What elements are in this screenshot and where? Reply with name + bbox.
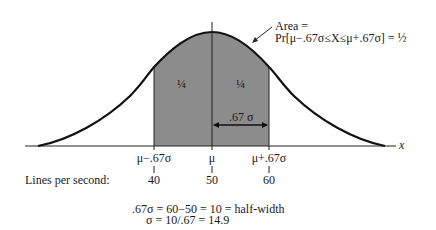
tick-label-upper: μ+.67σ <box>229 151 309 166</box>
value-50: 50 <box>197 173 227 188</box>
pointer-arrowhead-icon <box>252 37 258 43</box>
probability-expression: Pr[μ−.67σ≤X≤μ+.67σ] = ½ <box>275 32 407 45</box>
left-quarter-label: ¼ <box>177 77 186 92</box>
x-axis-label: x <box>399 138 404 153</box>
annotation-pointer <box>254 27 272 41</box>
value-40: 40 <box>139 173 169 188</box>
value-60: 60 <box>254 173 284 188</box>
half-width-label: .67 σ <box>229 110 253 125</box>
equation-sigma: σ = 10/.67 = 14.9 <box>146 213 229 228</box>
right-quarter-label: ¼ <box>236 77 245 92</box>
lines-per-second-label: Lines per second: <box>25 173 110 188</box>
